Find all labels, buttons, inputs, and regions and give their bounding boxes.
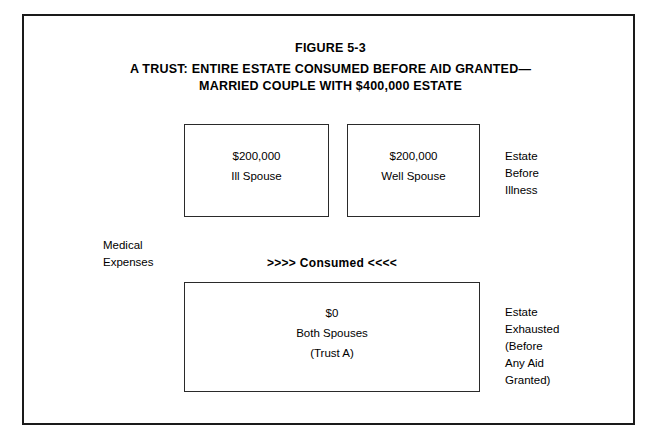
figure-title-line-2: A TRUST: ENTIRE ESTATE CONSUMED BEFORE A… bbox=[24, 61, 637, 78]
medical-expenses-line-1: Medical bbox=[103, 237, 154, 254]
estate-box-both-spouses: $0 Both Spouses (Trust A) bbox=[184, 282, 480, 392]
estate-box-well-spouse: $200,000 Well Spouse bbox=[347, 124, 480, 217]
annotation-estate-exhausted: Estate Exhausted (Before Any Aid Granted… bbox=[505, 304, 559, 389]
consumed-arrow-banner: >>>> Consumed <<<< bbox=[184, 256, 480, 270]
both-spouses-label: Both Spouses bbox=[296, 323, 368, 343]
figure-title-line-3: MARRIED COUPLE WITH $400,000 ESTATE bbox=[24, 78, 637, 95]
both-spouses-sublabel: (Trust A) bbox=[310, 343, 354, 363]
ill-spouse-amount: $200,000 bbox=[233, 146, 281, 166]
medical-expenses-line-2: Expenses bbox=[103, 254, 154, 271]
figure-outer-frame: FIGURE 5-3 A TRUST: ENTIRE ESTATE CONSUM… bbox=[22, 14, 635, 425]
annotation-estate-before-illness: Estate Before Illness bbox=[505, 148, 539, 199]
estate-exhausted-line-5: Granted) bbox=[505, 372, 559, 389]
well-spouse-amount: $200,000 bbox=[390, 146, 438, 166]
estate-before-illness-line-3: Illness bbox=[505, 182, 539, 199]
estate-exhausted-line-1: Estate bbox=[505, 304, 559, 321]
figure-container: FIGURE 5-3 A TRUST: ENTIRE ESTATE CONSUM… bbox=[0, 0, 653, 441]
estate-box-ill-spouse: $200,000 Ill Spouse bbox=[184, 124, 329, 217]
figure-title: FIGURE 5-3 A TRUST: ENTIRE ESTATE CONSUM… bbox=[24, 40, 637, 95]
estate-exhausted-line-4: Any Aid bbox=[505, 355, 559, 372]
well-spouse-label: Well Spouse bbox=[381, 166, 445, 186]
estate-before-illness-line-2: Before bbox=[505, 165, 539, 182]
annotation-medical-expenses: Medical Expenses bbox=[103, 237, 154, 271]
estate-exhausted-line-2: Exhausted bbox=[505, 321, 559, 338]
estate-before-illness-line-1: Estate bbox=[505, 148, 539, 165]
ill-spouse-label: Ill Spouse bbox=[231, 166, 282, 186]
estate-exhausted-line-3: (Before bbox=[505, 338, 559, 355]
both-spouses-amount: $0 bbox=[326, 303, 339, 323]
figure-title-line-1: FIGURE 5-3 bbox=[24, 40, 637, 57]
